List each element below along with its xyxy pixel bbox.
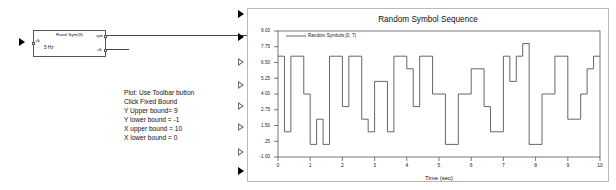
y-tick-label: 7.75 [261,44,270,49]
plot-port-6-arrow-icon[interactable] [238,123,244,131]
plot-port-1-arrow-icon[interactable] [238,10,244,18]
y-tick-label: 5.25 [261,76,270,81]
plot-port-column [0,0,247,190]
plot-port-4-arrow-icon[interactable] [238,81,244,89]
y-tick-label: -1.00 [260,154,270,159]
y-tick-label: 1.50 [261,123,270,128]
x-tick-label: 2 [332,163,352,168]
plot-port-8-arrow-icon[interactable] [238,167,244,175]
x-tick-label: 9 [558,163,578,168]
x-tick-label: 7 [493,163,513,168]
plot-port-2-arrow-icon[interactable] [238,33,244,41]
legend-entry-label: Random Symbols [0, 7] [308,33,356,38]
x-tick-label: 0 [268,163,288,168]
plot-svg [248,9,610,183]
plot-port-3-arrow-icon[interactable] [238,58,244,66]
x-tick-label: 3 [365,163,385,168]
x-tick-label: 10 [590,163,610,168]
y-tick-label: 2.75 [261,107,270,112]
x-tick-label: 5 [429,163,449,168]
x-axis-label: Time (sec) [278,175,600,181]
x-tick-label: 6 [461,163,481,168]
plot-panel[interactable]: Random Symbol Sequence Random Symbols [0… [247,8,609,182]
plot-port-7-arrow-icon[interactable] [238,148,244,156]
x-tick-label: 4 [397,163,417,168]
y-tick-label: 9.00 [261,28,270,33]
plot-port-5-arrow-icon[interactable] [238,102,244,110]
x-tick-label: 8 [526,163,546,168]
y-tick-label: .25 [264,139,270,144]
y-tick-label: 4.00 [261,91,270,96]
y-tick-label: 6.50 [261,60,270,65]
x-tick-label: 1 [300,163,320,168]
